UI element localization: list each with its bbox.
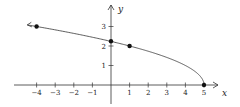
- x-tick-label: −2: [69, 89, 79, 97]
- curve: [27, 22, 204, 85]
- x-tick-label: 1: [127, 89, 131, 97]
- x-tick-label: 3: [165, 89, 169, 97]
- x-tick-label: 2: [146, 89, 150, 97]
- data-point: [109, 39, 113, 43]
- x-tick-label: −3: [50, 89, 60, 97]
- data-point: [127, 44, 131, 48]
- y-tick-label: 2: [102, 43, 106, 51]
- function-graph: −4−3−2−112345123 x y: [0, 0, 240, 107]
- y-tick-label: 1: [102, 62, 106, 70]
- y-axis-label: y: [117, 4, 124, 14]
- data-point: [34, 24, 38, 28]
- function-curve: [27, 25, 204, 85]
- x-tick-label: 5: [202, 89, 206, 97]
- x-axis-label: x: [222, 88, 227, 98]
- marked-points: [34, 24, 206, 87]
- y-tick-label: 3: [102, 23, 106, 31]
- ticks: −4−3−2−112345123: [31, 23, 206, 97]
- data-point: [202, 83, 206, 87]
- x-tick-label: −4: [31, 89, 42, 97]
- x-tick-label: 4: [183, 89, 188, 97]
- x-tick-label: −1: [87, 89, 97, 97]
- curve-arrow-icon: [27, 22, 32, 27]
